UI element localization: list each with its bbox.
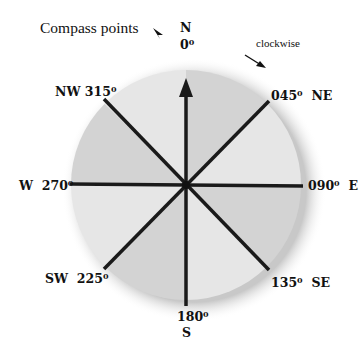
northwest-label: NW 3150: [55, 86, 117, 99]
northeast-label: 0450 NE: [271, 90, 332, 103]
southwest-label: SW 2250: [45, 273, 108, 286]
southeast-label: 1350 SE: [271, 277, 330, 290]
compass-diagram: [0, 0, 361, 354]
diagram-title: Compass points: [40, 20, 139, 36]
north-letter: N: [180, 22, 191, 35]
clockwise-label: clockwise: [256, 38, 300, 49]
north-degrees: 00: [180, 39, 194, 52]
center-point: [182, 181, 190, 189]
south-letter: S: [182, 327, 191, 340]
west-label: W 2700: [19, 180, 73, 193]
east-label: 0900 E: [308, 180, 358, 193]
title-pointer-icon: [153, 28, 163, 39]
south-degrees: 1800: [177, 311, 209, 324]
